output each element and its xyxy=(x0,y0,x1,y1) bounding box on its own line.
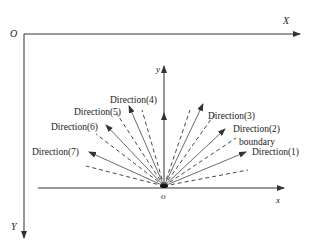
boundary-line xyxy=(164,110,190,186)
direction-5-arrow xyxy=(129,106,164,186)
direction-3-arrow xyxy=(164,104,203,186)
inner-x-label: x xyxy=(275,195,280,205)
boundary-label: boundary xyxy=(239,137,275,147)
boundary-line xyxy=(86,166,164,186)
direction-1-arrow xyxy=(164,152,246,186)
direction-6-label: Direction(6) xyxy=(51,122,98,133)
direction-2-arrow xyxy=(164,129,225,186)
origin-point xyxy=(160,184,168,188)
outer-origin-label: O xyxy=(10,28,17,39)
direction-labels: Direction(4) Direction(5) Direction(6) D… xyxy=(32,95,299,158)
direction-2-label: Direction(2) xyxy=(233,124,280,135)
direction-7-label: Direction(7) xyxy=(32,147,79,158)
direction-5-label: Direction(5) xyxy=(74,107,121,118)
direction-4-arrow-icon xyxy=(161,112,167,120)
inner-origin-label: o xyxy=(161,191,166,201)
outer-y-label: Y xyxy=(11,221,18,232)
inner-y-label: y xyxy=(155,64,160,74)
direction-4-label: Direction(4) xyxy=(110,95,157,106)
boundary-lines xyxy=(86,110,248,186)
direction-7-arrow xyxy=(89,152,164,186)
direction-1-label: Direction(1) xyxy=(252,147,299,158)
direction-diagram: O X Y o x y Direction(4) Direction(5) xyxy=(0,0,316,244)
outer-x-label: X xyxy=(282,15,290,26)
direction-3-label: Direction(3) xyxy=(208,111,255,122)
